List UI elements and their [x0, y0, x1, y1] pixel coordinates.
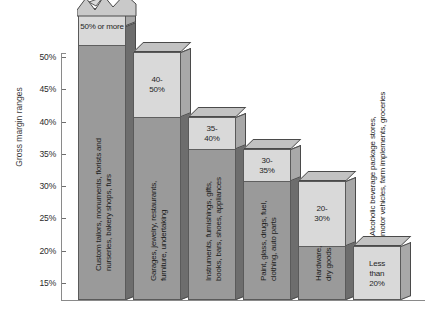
bar-body-label-6: Alcoholic beverage package stores, motor…	[368, 92, 387, 236]
bar-cap-1: 50% or more	[79, 9, 125, 46]
y-tick-label-15: 15%	[26, 278, 56, 288]
y-tick-label-35: 35%	[26, 149, 56, 159]
y-axis-bottom-cap	[61, 300, 66, 301]
y-tick-label-30: 30%	[26, 181, 56, 191]
y-tick-mark-25	[62, 218, 66, 219]
y-tick-mark-35	[62, 154, 66, 155]
bar-side-cap-6	[401, 242, 411, 300]
bar-group-4: 30- 35% Paint, glass, drugs, fuel, cloth…	[243, 149, 291, 300]
bar-side-cap-3	[236, 113, 246, 149]
x-axis-line	[61, 300, 425, 301]
bar-body-label-4: Paint, glass, drugs, fuel, clothing, aut…	[259, 201, 278, 281]
bar-front-2: 40- 50% Garages, jewelry, restaurants, f…	[133, 52, 181, 300]
bar-front-1: 50% or more Custom tailors, monuments, f…	[78, 8, 126, 300]
bar-cap-label-6: Less than 20%	[369, 259, 385, 289]
bar-group-5: 20- 30% Hardware, dry goods	[298, 181, 346, 300]
y-tick-mark-15	[62, 283, 66, 284]
y-tick-mark-30	[62, 186, 66, 187]
y-axis-title: Gross margin ranges	[14, 72, 24, 182]
bar-group-1: 50% or more Custom tailors, monuments, f…	[78, 8, 126, 300]
bar-cap-label-2: 40- 50%	[149, 75, 164, 95]
bar-side-cap-2	[181, 48, 191, 117]
y-tick-label-25: 25%	[26, 213, 56, 223]
y-tick-label-45: 45%	[26, 84, 56, 94]
bar-cap-label-1: 50% or more	[80, 22, 124, 32]
bar-cap-label-5: 20- 30%	[314, 204, 329, 224]
y-tick-label-20: 20%	[26, 246, 56, 256]
y-tick-label-40: 40%	[26, 117, 56, 127]
y-tick-mark-50	[62, 57, 66, 58]
bar-body-label-3: Instruments, furnishings, gifts, books, …	[204, 177, 223, 281]
gross-margin-bar-chart: Gross margin ranges 50% 45% 40% 35% 30% …	[0, 0, 428, 313]
bar-front-6: Less than 20%	[353, 246, 401, 300]
bar-side-cap-5	[346, 177, 356, 246]
bar-front-4: 30- 35% Paint, glass, drugs, fuel, cloth…	[243, 149, 291, 300]
bar-group-3: 35- 40% Instruments, furnishings, gifts,…	[188, 117, 236, 300]
bar-group-6: Less than 20%	[353, 246, 401, 300]
y-tick-mark-40	[62, 122, 66, 123]
bar-front-3: 35- 40% Instruments, furnishings, gifts,…	[188, 117, 236, 300]
y-tick-mark-20	[62, 251, 66, 252]
bar-group-2: 40- 50% Garages, jewelry, restaurants, f…	[133, 52, 181, 300]
bar-cap-6: Less than 20%	[354, 247, 400, 300]
y-tick-label-50: 50%	[26, 52, 56, 62]
bar-cap-2: 40- 50%	[134, 53, 180, 118]
bar-cap-label-3: 35- 40%	[204, 124, 219, 144]
bar-cap-label-4: 30- 35%	[259, 156, 274, 176]
y-tick-mark-45	[62, 89, 66, 90]
bar-cap-5: 20- 30%	[299, 182, 345, 247]
y-axis-line	[61, 53, 62, 301]
bar-side-cap-4	[291, 145, 301, 181]
bar-body-label-2: Garages, jewelry, restaurants, furniture…	[149, 181, 168, 281]
bar-front-5: 20- 30% Hardware, dry goods	[298, 181, 346, 300]
bar-body-label-1: Custom tailors, monuments, florists and …	[94, 138, 113, 271]
y-axis-top-cap	[61, 53, 66, 54]
bar-body-label-5: Hardware, dry goods	[314, 246, 333, 281]
bar-cap-4: 30- 35%	[244, 150, 290, 182]
bar-cap-3: 35- 40%	[189, 118, 235, 150]
